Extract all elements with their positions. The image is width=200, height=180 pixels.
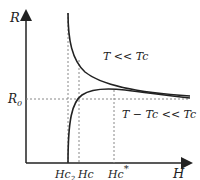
upper-curve-label: T << Tc — [103, 50, 148, 63]
y-axis-label: R — [9, 10, 20, 25]
hc-label: Hc — [77, 168, 94, 180]
resistance-field-diagram: R H R0 T << Tc T − Tc << Tc Hc2 Hc Hc* — [0, 0, 200, 180]
hc2-label: Hc2 — [54, 168, 76, 180]
hc-star-label: Hc* — [107, 163, 129, 180]
r0-label: R0 — [7, 92, 22, 108]
curve-lower — [68, 89, 190, 163]
x-axis-label: H — [172, 166, 185, 180]
lower-curve-label: T − Tc << Tc — [122, 108, 196, 121]
